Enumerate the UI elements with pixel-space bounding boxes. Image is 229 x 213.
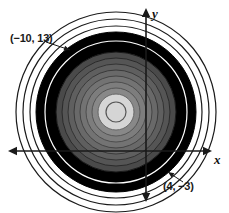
y-axis-arrow-up-icon: [142, 8, 150, 17]
concentric-circles-figure: (−10, 13) (4, −3) y x: [0, 0, 229, 213]
point-label-lower-right: (4, −3): [163, 180, 194, 192]
ring-15: [106, 102, 126, 122]
x-axis-arrow-left-icon: [8, 147, 17, 155]
point-label-upper-left: (−10, 13): [10, 32, 53, 44]
x-axis-label: x: [214, 152, 221, 168]
y-axis-label: y: [152, 6, 158, 22]
